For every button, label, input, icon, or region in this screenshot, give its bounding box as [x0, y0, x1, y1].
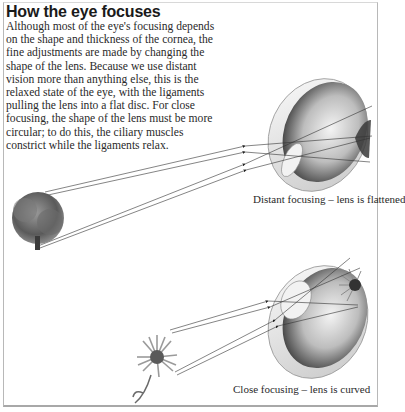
flower-icon [133, 335, 177, 403]
distant-eye [250, 62, 383, 208]
close-focusing-caption: Close focusing – lens is curved [233, 383, 370, 395]
tree-icon [12, 192, 64, 250]
close-eye [250, 249, 383, 395]
distant-focusing-caption: Distant focusing – lens is flattened [253, 193, 405, 205]
